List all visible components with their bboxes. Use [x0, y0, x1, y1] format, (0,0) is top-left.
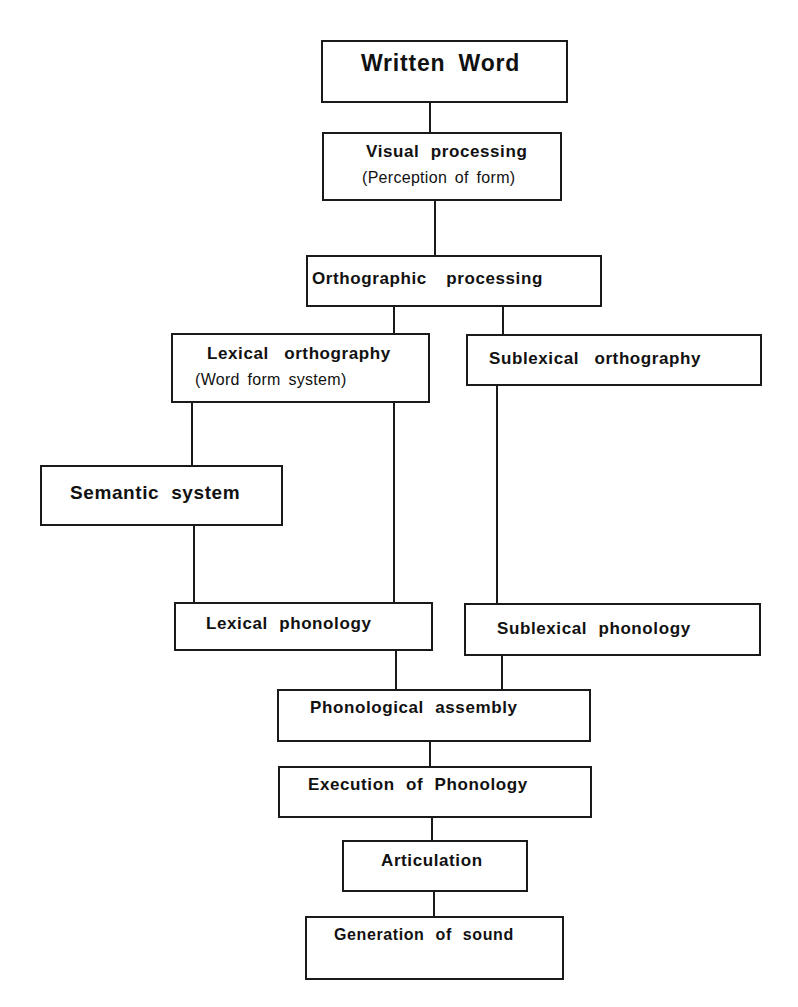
node-lexical-phonology: Lexical phonology [174, 602, 433, 651]
edge-lexical-orth-to-lexical-phon [393, 401, 395, 603]
node-label: Visual processing [366, 142, 527, 162]
node-sublexical-orthography: Sublexical orthography [466, 334, 762, 386]
node-label: Lexical phonology [206, 614, 371, 634]
node-written-word: Written Word [321, 40, 568, 103]
node-label: Orthographic processing [312, 269, 543, 289]
edge-written-to-visual [429, 101, 431, 133]
edge-semantic-to-lexical-phon [193, 524, 195, 603]
node-lexical-orthography: Lexical orthography (Word form system) [171, 333, 430, 403]
node-label: Generation of sound [334, 926, 514, 944]
edge-sublexical-orth-to-sublexical-phon [496, 384, 498, 604]
edge-lexical-phon-to-assembly [395, 649, 397, 690]
node-execution-of-phonology: Execution of Phonology [278, 766, 592, 818]
node-label: Lexical orthography [207, 344, 391, 364]
node-generation-of-sound: Generation of sound [305, 916, 564, 980]
edge-assembly-to-execution [429, 740, 431, 767]
node-articulation: Articulation [342, 840, 528, 892]
edge-orthographic-to-sublexical-orth [502, 305, 504, 335]
node-semantic-system: Semantic system [40, 465, 283, 526]
node-phonological-assembly: Phonological assembly [277, 689, 591, 742]
node-sublabel: (Word form system) [195, 371, 347, 389]
node-label: Articulation [381, 851, 483, 871]
edge-visual-to-orthographic [434, 199, 436, 256]
node-label: Semantic system [70, 482, 240, 504]
edge-sublexical-phon-to-assembly [501, 654, 503, 690]
edge-execution-to-articulation [431, 816, 433, 841]
node-sublexical-phonology: Sublexical phonology [464, 603, 761, 656]
edge-orthographic-to-lexical-orth [393, 305, 395, 334]
node-label: Sublexical phonology [497, 619, 691, 639]
edge-lexical-orth-to-semantic [191, 401, 193, 466]
node-orthographic-processing: Orthographic processing [306, 255, 602, 307]
node-label: Execution of Phonology [308, 775, 528, 795]
node-label: Written Word [361, 50, 520, 77]
node-label: Phonological assembly [310, 698, 518, 718]
node-visual-processing: Visual processing (Perception of form) [322, 132, 562, 201]
edge-articulation-to-generation [433, 890, 435, 917]
node-label: Sublexical orthography [489, 349, 701, 369]
node-sublabel: (Perception of form) [362, 169, 515, 187]
